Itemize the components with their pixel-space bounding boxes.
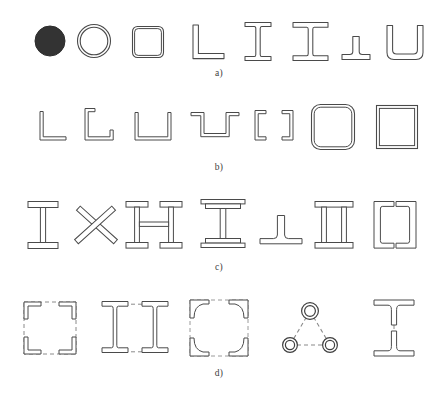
shape-cold-formed-channel	[133, 111, 173, 142]
shape-battened-double-t	[371, 298, 417, 358]
steel-cross-section-figure: a)	[0, 0, 438, 405]
shape-laced-four-angle-box	[19, 298, 81, 358]
shape-cold-formed-lipped-angle	[83, 107, 117, 142]
shape-h-beam-section	[291, 21, 330, 62]
shape-solid-round-bar	[33, 24, 67, 58]
shape-laced-four-angle-square	[186, 296, 252, 360]
shape-battened-double-i	[100, 300, 170, 356]
shape-circular-hollow-section	[75, 22, 113, 60]
shape-laced-three-tube-triangle	[278, 300, 342, 356]
row-c: c)	[0, 190, 438, 252]
shape-t-section	[340, 35, 372, 61]
shape-welded-double-channel	[372, 200, 418, 252]
row-d: d)	[0, 292, 438, 360]
shape-welded-i-section	[26, 200, 60, 252]
shape-angle-section	[190, 23, 226, 61]
shape-welded-cross-section	[74, 204, 118, 248]
shape-i-beam-section	[243, 21, 273, 62]
shape-welded-t-section	[258, 214, 304, 250]
row-c-label: c)	[0, 262, 438, 272]
row-a-label: a)	[0, 68, 438, 78]
row-d-label: d)	[0, 368, 438, 378]
shape-welded-plated-i-section	[199, 198, 247, 252]
shape-welded-double-i-battened	[124, 200, 184, 252]
shape-square-hollow-section	[131, 25, 165, 59]
shape-channel-section	[385, 24, 425, 61]
shape-welded-box-section	[313, 200, 355, 252]
shape-cold-formed-angle	[38, 110, 68, 142]
shape-cold-formed-rounded-rhs	[310, 103, 356, 151]
row-b-label: b)	[0, 162, 438, 172]
row-b: b)	[0, 100, 438, 150]
shape-cold-formed-lipped-channel	[253, 109, 295, 142]
shape-cold-formed-square-rhs	[375, 104, 419, 150]
shape-cold-formed-hat-section	[189, 111, 241, 141]
row-a: a)	[0, 0, 438, 62]
